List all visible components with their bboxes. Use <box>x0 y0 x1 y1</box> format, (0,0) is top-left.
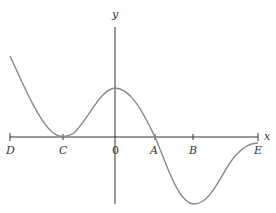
x-axis-label: x <box>264 130 271 143</box>
point-label-c: C <box>59 144 68 157</box>
point-label-b: B <box>188 144 197 157</box>
function-curve <box>10 56 258 204</box>
point-label-a: A <box>149 144 158 157</box>
point-label-d: D <box>5 144 15 157</box>
point-label-e: E <box>253 144 262 157</box>
y-axis-label: y <box>111 8 119 21</box>
function-graph: y x D C 0 A B E <box>0 0 276 213</box>
point-label-origin: 0 <box>112 144 119 157</box>
